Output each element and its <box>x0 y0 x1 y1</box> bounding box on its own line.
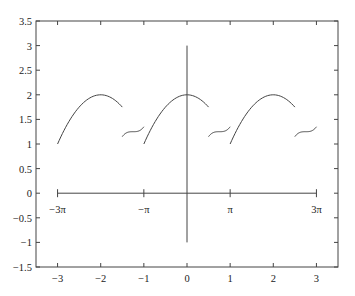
series-arc-1 <box>58 95 123 144</box>
pi-axis-label: −π <box>138 204 150 215</box>
y-tick-label: 2.5 <box>19 65 32 76</box>
series-arc-3 <box>230 95 295 144</box>
pi-axis-label: 3π <box>311 204 322 215</box>
y-tick-label: 3.5 <box>19 16 32 27</box>
series-wiggle-3 <box>295 127 317 137</box>
y-tick-label: 1 <box>27 139 32 150</box>
x-tick-label: 1 <box>228 273 233 284</box>
series-wiggle-2 <box>209 127 231 137</box>
x-tick-label: −3 <box>52 273 63 284</box>
y-tick-label: −0.5 <box>13 213 32 224</box>
chart: −3−2−10123−1.5−1−0.500.511.522.533.5 −3π… <box>0 0 355 296</box>
y-tick-label: 2 <box>27 90 32 101</box>
x-tick-label: −2 <box>95 273 106 284</box>
y-tick-label: −1.5 <box>13 262 32 273</box>
y-tick-label: −1 <box>21 237 32 248</box>
y-tick-label: 0.5 <box>19 164 32 175</box>
x-tick-label: −1 <box>138 273 149 284</box>
pi-axis-label: −3π <box>49 204 66 215</box>
y-tick-label: 1.5 <box>19 114 32 125</box>
x-tick-label: 0 <box>184 273 189 284</box>
axis-ticks: −3−2−10123−1.5−1−0.500.511.522.533.5 <box>13 16 338 284</box>
y-tick-label: 3 <box>27 41 32 52</box>
annotations: −3π−ππ3π <box>49 46 322 243</box>
x-tick-label: 3 <box>314 273 319 284</box>
y-tick-label: 0 <box>27 188 32 199</box>
pi-axis-label: π <box>227 204 233 215</box>
series-arc-2 <box>144 95 209 144</box>
x-tick-label: 2 <box>271 273 276 284</box>
series-wiggle-1 <box>122 127 144 137</box>
